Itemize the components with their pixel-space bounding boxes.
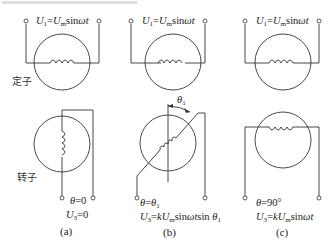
panel-b: U1=Umsinωt θ1 θ=θ1 U3=kUmsinωtsin θ1 (b) xyxy=(129,15,221,239)
theta-label: θ=0 xyxy=(70,195,86,206)
stator-formula: U1=Umsinωt xyxy=(36,15,90,28)
terminal-icon[interactable] xyxy=(91,196,95,200)
rotor-wire-right xyxy=(293,127,319,196)
stator-c: U1=Umsinωt xyxy=(243,15,321,90)
rotor-c xyxy=(243,112,321,200)
angle-marker: θ1 xyxy=(177,94,186,107)
rotor-wire-left xyxy=(137,150,160,196)
stator-coil-icon xyxy=(269,60,293,63)
stator-a: U1=Umsinωt xyxy=(24,15,101,90)
stator-b: U1=Umsinωt xyxy=(129,15,207,90)
terminal-icon[interactable] xyxy=(243,19,247,23)
stator-formula: U1=Umsinωt xyxy=(256,15,310,28)
rotor-circle-icon xyxy=(255,112,311,168)
theta-label: θ=θ1 xyxy=(140,197,160,210)
stator-label: 定子 xyxy=(12,75,32,87)
panel-a: U1=Umsinωt 定子 转子 θ=0 U3=0 (a) xyxy=(12,15,101,238)
stator-wire-left xyxy=(26,24,50,63)
theta-label: θ=90° xyxy=(256,197,282,208)
rotor-coil-icon xyxy=(269,127,293,130)
terminal-icon[interactable] xyxy=(243,196,247,200)
resolver-diagram: U1=Umsinωt 定子 转子 θ=0 U3=0 (a) U1=Umsinωt xyxy=(0,0,332,241)
stator-coil-icon xyxy=(50,60,74,63)
stator-wire-left xyxy=(245,24,269,63)
terminal-icon[interactable] xyxy=(135,196,139,200)
terminal-icon[interactable] xyxy=(203,196,207,200)
output-label: U3=kUmsinωtsin θ1 xyxy=(140,211,221,224)
terminal-icon[interactable] xyxy=(317,196,321,200)
stator-wire-right xyxy=(185,24,205,63)
stator-circle-icon xyxy=(34,34,90,90)
caption-c: (c) xyxy=(276,226,289,239)
terminal-icon[interactable] xyxy=(129,19,133,23)
terminal-icon[interactable] xyxy=(60,196,64,200)
rotor-b: θ1 xyxy=(135,94,207,200)
terminal-icon[interactable] xyxy=(203,19,207,23)
cropped-text-remnant xyxy=(2,1,137,4)
output-label: U3=kUmsinωt xyxy=(256,211,314,224)
stator-wire-right xyxy=(293,24,319,63)
terminal-icon[interactable] xyxy=(317,19,321,23)
arrow-tail-icon xyxy=(168,104,173,108)
stator-formula: U1=Umsinωt xyxy=(142,15,196,28)
terminal-icon[interactable] xyxy=(24,19,28,23)
rotor-a xyxy=(34,110,95,200)
rotor-coil-icon xyxy=(62,131,65,155)
stator-circle-icon xyxy=(145,34,201,90)
stator-circle-icon xyxy=(255,34,311,90)
caption-a: (a) xyxy=(60,225,73,238)
rotor-wire-right xyxy=(176,113,205,196)
stator-wire-right xyxy=(74,24,99,63)
rotor-label: 转子 xyxy=(17,171,37,183)
terminal-icon[interactable] xyxy=(97,19,101,23)
panel-c: U1=Umsinωt θ=90° U3=kUmsinωt (c) xyxy=(243,15,321,239)
arrow-head-icon xyxy=(184,108,190,113)
output-label: U3=0 xyxy=(66,209,88,222)
stator-wire-left xyxy=(131,24,161,63)
stator-coil-icon xyxy=(158,60,182,63)
caption-b: (b) xyxy=(163,226,176,239)
